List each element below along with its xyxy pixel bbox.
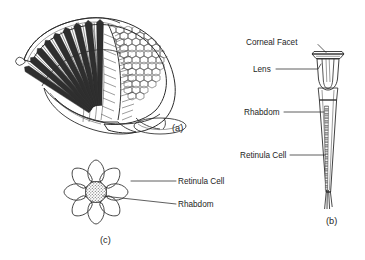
- figure-root: (a): [0, 0, 365, 260]
- axon-strands: [325, 190, 333, 209]
- label-corneal-facet: Corneal Facet: [246, 38, 298, 47]
- label-lens-b: Lens: [253, 65, 271, 74]
- ommatidia-fan: [23, 19, 104, 114]
- corneal-facet-shape: [312, 52, 344, 59]
- panel-c-caption: (c): [100, 235, 111, 245]
- panel-b-ommatidium: Corneal Facet Lens Rhabdom Retinula Cell…: [240, 38, 344, 226]
- leader-lens: [276, 64, 321, 69]
- panel-a-cutaway-eye: (a): [16, 18, 186, 134]
- panel-b-leaders: [276, 45, 326, 156]
- panel-b-caption: (b): [326, 216, 337, 226]
- label-rhabdom-c: Rhabdom: [178, 200, 214, 209]
- compound-eye-figure: (a): [0, 0, 365, 260]
- rhabdom-shape: [323, 106, 330, 190]
- label-retinula-cell-b: Retinula Cell: [240, 151, 287, 160]
- label-rhabdom-b: Rhabdom: [244, 108, 280, 117]
- lens-shape: [317, 59, 339, 90]
- rhabdom-core: [86, 182, 107, 203]
- label-retinula-cell-c: Retinula Cell: [178, 177, 225, 186]
- panel-c-rosette: Retinula Cell Rhabdom (c): [64, 160, 225, 245]
- panel-a-caption: (a): [172, 123, 183, 133]
